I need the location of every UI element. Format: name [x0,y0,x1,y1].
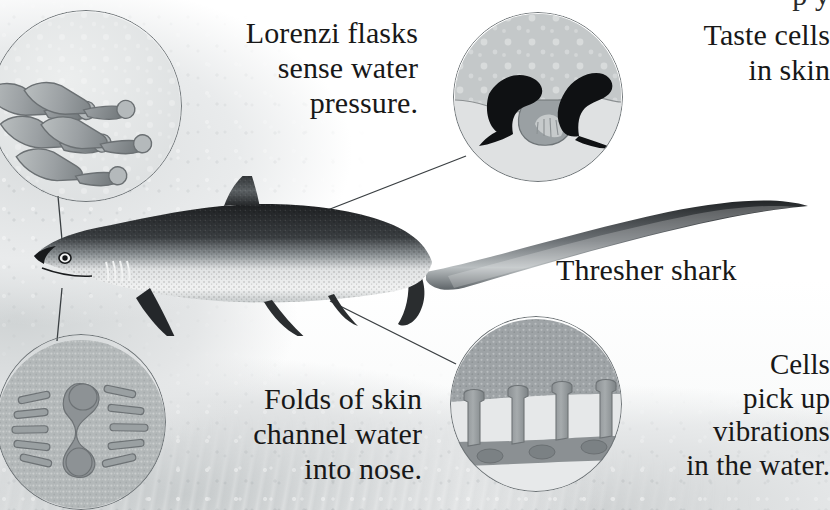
shark-pupil [62,255,67,260]
caption-taste-cells: Taste cells in skin [616,18,830,88]
diagram-canvas: p y Lorenzi flasks sense water pressure.… [0,0,830,510]
caption-clipped-top: p y [600,0,830,13]
caption-skin-folds: Folds of skin channel water into nose. [186,382,422,486]
caption-thresher-shark: Thresher shark [556,253,830,288]
nasal-skin-folds-inset[interactable] [0,334,166,510]
lateral-line-cells-inset[interactable] [450,316,622,492]
shark-pelvic-fin [264,300,308,336]
taste-cells-inset[interactable] [453,12,623,182]
caption-lorenzi-flasks: Lorenzi flasks sense water pressure. [168,16,418,120]
shark-dorsal-fin-texture [224,176,260,208]
shark-anal-fin [328,294,358,326]
caption-vibration-cells: Cells pick up vibrations in the water. [618,348,830,483]
shark-body-texture [34,204,432,302]
